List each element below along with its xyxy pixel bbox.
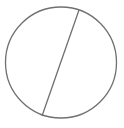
chord-line [42, 10, 79, 116]
diagram-canvas [0, 0, 124, 128]
